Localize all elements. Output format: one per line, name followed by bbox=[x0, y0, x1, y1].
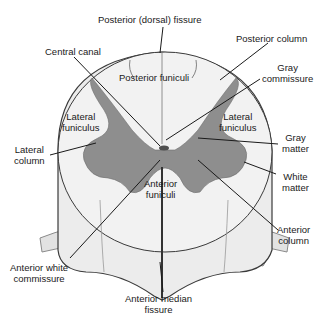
label-anterior-funiculi: Anterior funiculi bbox=[144, 178, 177, 200]
label-posterior-funiculi: Posterior funiculi bbox=[119, 72, 189, 83]
spinal-cord-diagram: Posterior (dorsal) fissure Posterior col… bbox=[0, 0, 329, 320]
label-anterior-median-fissure: Anterior median fissure bbox=[125, 293, 192, 315]
label-gray-matter: Gray matter bbox=[282, 132, 309, 154]
label-central-canal: Central canal bbox=[45, 46, 101, 57]
label-white-matter: White matter bbox=[282, 171, 309, 193]
label-lateral-column: Lateral column bbox=[14, 144, 45, 166]
label-lateral-funiculus-right: Lateral funiculus bbox=[219, 111, 257, 133]
label-anterior-column: Anterior column bbox=[277, 224, 310, 246]
central-canal bbox=[159, 146, 169, 151]
label-gray-commissure: Gray commissure bbox=[262, 62, 313, 84]
label-anterior-white-commissure: Anterior white commissure bbox=[10, 262, 68, 284]
label-posterior-dorsal-fissure: Posterior (dorsal) fissure bbox=[98, 14, 201, 25]
label-posterior-column: Posterior column bbox=[236, 33, 307, 44]
label-lateral-funiculus-left: Lateral funiculus bbox=[62, 111, 100, 133]
